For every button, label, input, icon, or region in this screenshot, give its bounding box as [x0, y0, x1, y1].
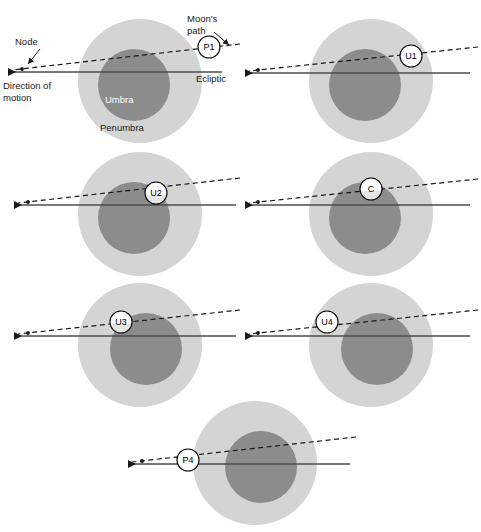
moon-label-c: C — [368, 184, 375, 194]
umbra-circle — [341, 313, 413, 385]
moon-label-u4: U4 — [321, 317, 333, 327]
umbra-circle — [329, 49, 401, 121]
lunar-eclipse-diagram: P1 Umbra Penumbra Node Direction of moti… — [0, 0, 481, 532]
direction-label-line1: Direction of — [3, 80, 51, 91]
node-label: Node — [15, 36, 38, 47]
moon-label-p4: P4 — [182, 455, 193, 465]
penumbra-label: Penumbra — [100, 122, 145, 133]
moon-label-u3: U3 — [115, 317, 127, 327]
node-dot — [256, 200, 260, 204]
node-dot — [256, 68, 260, 72]
direction-label-line2: motion — [3, 92, 32, 103]
moons-path-label-line2: path — [187, 25, 206, 36]
moon-label-u1: U1 — [405, 51, 417, 61]
node-dot — [26, 200, 30, 204]
umbra-label: Umbra — [105, 94, 134, 105]
umbra-circle — [225, 431, 297, 503]
diagram-canvas: P1 Umbra Penumbra Node Direction of moti… — [0, 0, 481, 532]
ecliptic-label: Ecliptic — [196, 73, 226, 84]
umbra-circle — [98, 49, 170, 121]
moons-path-label-line1: Moon's — [187, 13, 218, 24]
node-dot — [26, 331, 30, 335]
node-dot — [20, 67, 24, 71]
moon-label-p1: P1 — [203, 42, 214, 52]
node-dot — [256, 331, 260, 335]
moon-label-u2: U2 — [150, 188, 162, 198]
node-dot — [140, 459, 144, 463]
